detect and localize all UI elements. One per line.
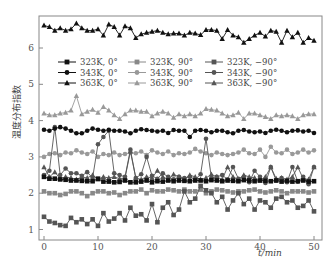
y-tick-label: 1 [28,225,34,235]
y-tick-label: 3 [28,152,34,162]
legend-label: 363K, 90° [150,78,193,88]
legend: 323K, 0°323K, 90°323K, −90°343K, 0°343K,… [58,57,277,88]
legend-label: 323K, 90° [150,57,193,67]
y-axis-title: 温度分布指数 [11,85,22,139]
y-tick-label: 6 [28,43,34,53]
legend-label: 343K, −90° [227,68,277,78]
legend-label: 363K, 0° [80,78,118,88]
legend-label: 343K, 0° [80,68,118,78]
legend-label: 323K, 0° [80,57,118,67]
x-tick-label: 20 [146,242,158,252]
legend-label: 363K, −90° [227,78,277,88]
legend-label: 323K, −90° [227,57,277,67]
y-tick-label: 5 [28,79,34,89]
x-axis-title: t/min [258,248,282,258]
y-tick-label: 2 [28,188,34,198]
x-tick-label: 50 [308,242,320,252]
chart-canvas: 123456 01020304050 323K, 0°323K, 90°323K… [0,0,333,274]
x-tick-label: 0 [41,242,47,252]
plot-frame [39,16,322,240]
y-tick-label: 4 [28,116,34,126]
x-tick-label: 10 [92,242,104,252]
legend-label: 343K, 90° [150,68,193,78]
x-tick-label: 30 [200,242,212,252]
